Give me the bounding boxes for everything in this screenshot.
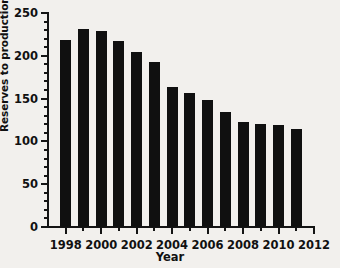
y-axis-tick-label: 0	[30, 220, 38, 234]
y-axis-tick-minor	[44, 175, 48, 177]
x-axis-tick-major	[100, 227, 102, 234]
x-axis-tick-major	[171, 227, 173, 234]
y-axis-tick-label: 100	[14, 134, 38, 148]
y-axis-tick-minor	[44, 132, 48, 134]
y-axis-tick-major	[41, 98, 48, 100]
x-axis-tick-minor	[260, 227, 262, 231]
y-axis-tick-minor	[44, 149, 48, 151]
x-axis-tick-major	[313, 227, 315, 234]
y-axis-tick-minor	[44, 21, 48, 23]
y-axis-tick-minor	[44, 200, 48, 202]
x-axis-tick-major	[242, 227, 244, 234]
y-axis-tick-minor	[44, 192, 48, 194]
x-axis-tick-major	[65, 227, 67, 234]
bar	[220, 112, 231, 227]
x-axis-tick-major	[136, 227, 138, 234]
bar	[273, 125, 284, 227]
y-axis-tick-minor	[44, 115, 48, 117]
x-axis-title: Year	[0, 250, 340, 264]
y-axis-tick-major	[41, 55, 48, 57]
y-axis-tick-minor	[44, 46, 48, 48]
y-axis-tick-minor	[44, 63, 48, 65]
y-axis-tick-minor	[44, 72, 48, 74]
bar	[255, 124, 266, 227]
y-axis-tick-minor	[44, 29, 48, 31]
x-axis-tick-minor	[118, 227, 120, 231]
y-axis-tick-label: 150	[14, 92, 38, 106]
y-axis-tick-major	[41, 226, 48, 228]
y-axis-tick-major	[41, 12, 48, 14]
y-axis-title: Reserves to production ratio (years)	[0, 0, 10, 132]
bar	[202, 100, 213, 227]
y-axis-tick-minor	[44, 89, 48, 91]
bar	[96, 31, 107, 227]
plot-area: 0501001502002501998200020022004200620082…	[48, 13, 314, 227]
y-axis-tick-minor	[44, 209, 48, 211]
bar	[113, 41, 124, 227]
y-axis-tick-minor	[44, 106, 48, 108]
bar	[78, 29, 89, 227]
y-axis-tick-minor	[44, 123, 48, 125]
x-axis-tick-minor	[224, 227, 226, 231]
x-axis-tick-minor	[153, 227, 155, 231]
y-axis-tick-label: 250	[14, 6, 38, 20]
y-axis-tick-minor	[44, 38, 48, 40]
y-axis-tick-minor	[44, 80, 48, 82]
y-axis-tick-minor	[44, 166, 48, 168]
y-axis-tick-major	[41, 183, 48, 185]
x-axis-tick-minor	[82, 227, 84, 231]
bar	[131, 52, 142, 227]
bar	[149, 62, 160, 227]
y-axis-tick-minor	[44, 217, 48, 219]
x-axis-tick-major	[278, 227, 280, 234]
bar	[167, 87, 178, 227]
bar-chart: 0501001502002501998200020022004200620082…	[0, 0, 340, 268]
y-axis-tick-minor	[44, 158, 48, 160]
x-axis-tick-minor	[295, 227, 297, 231]
y-axis-tick-label: 200	[14, 49, 38, 63]
x-axis-tick-major	[207, 227, 209, 234]
bar	[184, 93, 195, 227]
bar	[291, 129, 302, 227]
bar	[60, 40, 71, 227]
y-axis-tick-major	[41, 140, 48, 142]
x-axis-tick-minor	[189, 227, 191, 231]
bar	[238, 122, 249, 227]
y-axis-tick-label: 50	[22, 177, 38, 191]
